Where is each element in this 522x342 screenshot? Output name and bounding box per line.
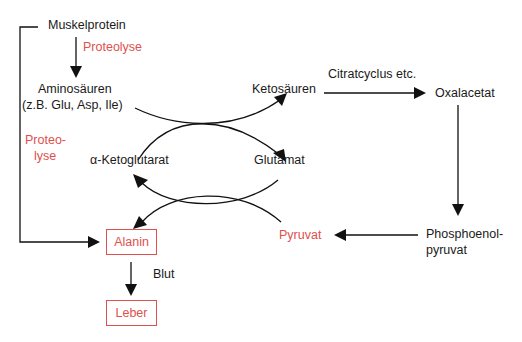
pep-to-pyruvat-arrow	[334, 229, 418, 241]
node-aminosaeuren: Aminosäuren	[38, 82, 112, 97]
glutamat-to-ketoglutarat-curve	[142, 180, 278, 204]
label-proteolyse-top: Proteolyse	[83, 40, 142, 55]
pyruvat-to-alanin-curve	[142, 196, 281, 222]
node-ketosaeuren: Ketosäuren	[252, 82, 316, 97]
aminosaeuren-to-ketosaeuren-curve	[135, 100, 280, 124]
blut-arrow	[125, 262, 137, 296]
node-alanin: Alanin	[106, 229, 157, 255]
node-aminosaeuren-examples: (z.B. Glu, Asp, Ile)	[22, 98, 123, 113]
node-phosphoenolpyruvat-2: pyruvat	[426, 243, 467, 258]
node-glutamat: Glutamat	[254, 153, 305, 168]
label-proteolyse-side-2: lyse	[34, 149, 56, 164]
citratcyclus-arrow	[324, 87, 426, 99]
label-proteolyse-side-1: Proteo-	[25, 133, 66, 148]
label-citratcyclus: Citratcyclus etc.	[328, 67, 416, 82]
node-pyruvat: Pyruvat	[279, 228, 321, 243]
node-alpha-ketoglutarat: α-Ketoglutarat	[90, 153, 169, 168]
label-blut: Blut	[153, 267, 175, 282]
node-phosphoenolpyruvat-1: Phosphoenol-	[426, 227, 503, 242]
pathway-lines	[0, 0, 522, 342]
node-muskelprotein: Muskelprotein	[48, 18, 126, 33]
oxalacetat-to-pep-arrow	[452, 105, 464, 216]
node-leber: Leber	[106, 300, 157, 326]
node-oxalacetat: Oxalacetat	[435, 86, 495, 101]
proteolyse-arrow	[70, 37, 82, 78]
